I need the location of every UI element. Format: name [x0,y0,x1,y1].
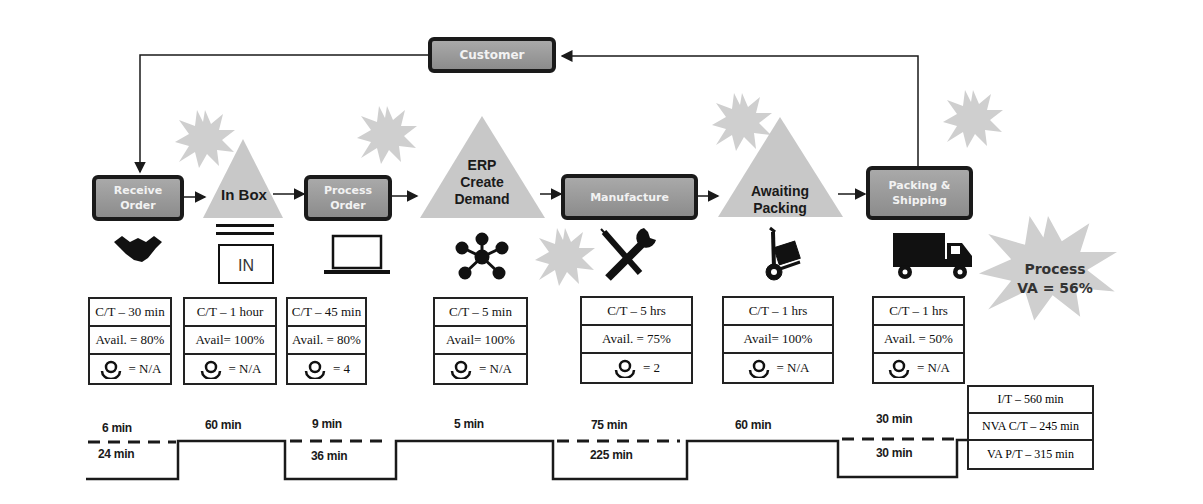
handshake-icon [114,236,162,262]
data-box-manufacture: C/T – 5 hrs Avail. = 75% = 2 [580,296,693,384]
operator-icon [303,359,327,379]
cycle-time: C/T – 30 min [90,299,170,327]
kaizen-burst-icon [357,106,417,164]
timeline-va-time: 9 min [312,417,342,431]
cycle-time: C/T – 1 hrs [874,298,963,326]
timeline-nva-time: 30 min [876,446,912,460]
process-label-line2: Order [120,199,156,212]
inventory-label-in-box: In Box [208,186,280,203]
operator-icon [747,358,771,378]
timeline-va-time: 75 min [591,418,627,432]
va-process-time: VA P/T – 315 min [969,441,1092,468]
availability: Avail. = 80% [90,327,170,355]
process-process-order: ProcessOrder [304,175,392,221]
laptop-icon [324,236,390,274]
kaizen-burst-icon [175,110,235,168]
timeline-wait-time: 5 min [454,417,484,431]
operator-icon [449,359,473,379]
process-manufacture: Manufacture [561,174,698,220]
cycle-time: C/T – 1 hrs [724,298,832,326]
process-label-line2: Order [330,199,366,212]
tools-icon [601,228,656,278]
kaizen-burst-icon [712,93,772,151]
operator-count: = N/A [229,361,262,377]
operator-icon [613,358,637,378]
availability: Avail. = 50% [874,326,963,354]
timeline-wait-time: 60 min [205,418,241,432]
process-label-line1: Process [324,184,372,197]
timeline-ladder [86,439,975,479]
data-box-erp: C/T – 5 min Avail= 100% = N/A [433,297,528,385]
cycle-time: C/T – 5 min [435,299,526,327]
nva-cycle-time: NVA C/T – 245 min [969,414,1092,441]
process-label-line1: Packing & [889,179,951,192]
inventory-label-erp: ERP Create Demand [432,157,532,208]
kaizen-burst-icon [535,228,595,286]
lead-time-summary: I/T – 560 min NVA C/T – 245 min VA P/T –… [967,385,1094,470]
timeline-va-time: 30 min [876,412,912,426]
customer-label: Customer [459,48,524,63]
data-box-packing-shipping: C/T – 1 hrs Avail. = 50% = N/A [872,296,965,384]
hand-truck-icon [766,228,800,280]
inbox-tray-icon: IN [216,224,274,283]
operator-icon [199,359,223,379]
operator-icon [887,358,911,378]
timeline-nva-time: 225 min [590,448,633,462]
availability: Avail. = 80% [288,327,365,355]
inventory-label-awaiting-packing: Awaiting Packing [730,183,830,217]
cycle-time: C/T – 5 hrs [582,298,691,326]
customer-box: Customer [428,37,556,73]
availability: Avail= 100% [185,327,275,355]
inbox-icon-text: IN [238,257,254,274]
lead-time: I/T – 560 min [969,387,1092,414]
availability: Avail= 100% [724,326,832,354]
data-box-awaiting-packing: C/T – 1 hrs Avail= 100% = N/A [722,296,834,384]
process-packing-shipping: Packing &Shipping [866,166,973,220]
data-box-in-box: C/T – 1 hour Avail= 100% = N/A [183,297,277,385]
network-hub-icon [457,234,507,278]
data-box-receive-order: C/T – 30 min Avail. = 80% = N/A [88,297,172,385]
process-label-line1: Manufacture [590,190,669,205]
cycle-time: C/T – 45 min [288,299,365,327]
cycle-time: C/T – 1 hour [185,299,275,327]
operator-count: = 2 [643,360,660,376]
operator-count: = N/A [479,361,512,377]
timeline-nva-time: 24 min [98,447,134,461]
kaizen-burst-icon [943,90,1003,148]
process-label-line2: Shipping [892,194,947,207]
dump-truck-icon [893,233,972,279]
availability: Avail= 100% [435,327,526,355]
operator-count: = 4 [333,361,350,377]
data-box-process-order: C/T – 45 min Avail. = 80% = 4 [286,297,367,385]
timeline-nva-time: 36 min [311,449,347,463]
timeline-wait-time: 60 min [735,418,771,432]
operator-count: = N/A [917,360,950,376]
operator-count: = N/A [129,361,162,377]
process-va-label: Process VA = 56% [1000,260,1110,298]
process-receive-order: ReceiveOrder [92,175,184,221]
availability: Avail. = 75% [582,326,691,354]
operator-icon [99,359,123,379]
operator-count: = N/A [777,360,810,376]
timeline-va-time: 6 min [102,421,132,435]
process-label-line1: Receive [114,184,162,197]
